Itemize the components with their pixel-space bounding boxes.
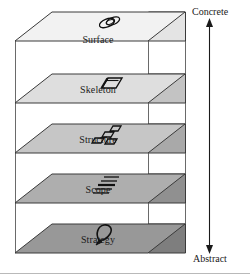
axis-label-concrete: Concrete xyxy=(192,6,228,17)
axis-label-abstract: Abstract xyxy=(193,253,227,264)
diagram-canvas xyxy=(0,0,250,274)
concrete-abstract-axis xyxy=(206,18,213,254)
layer-surface xyxy=(15,12,186,41)
layer-structure xyxy=(15,124,186,153)
axis-arrow-up xyxy=(206,18,213,27)
layer-strategy xyxy=(15,224,186,253)
elements-of-ux-diagram: Surface Skeleton Structure Scope Strateg… xyxy=(0,0,250,274)
layer-scope xyxy=(15,174,186,203)
layer-skeleton xyxy=(15,74,186,103)
